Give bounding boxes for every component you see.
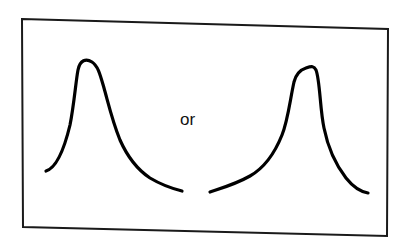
right-skewed-peak-curve — [210, 67, 368, 193]
or-label: or — [180, 110, 195, 129]
skewed-distributions-figure: or — [0, 0, 410, 250]
figure-frame — [22, 19, 388, 236]
left-skewed-peak-curve — [46, 60, 182, 191]
